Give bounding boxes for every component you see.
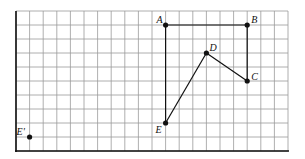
point-a-label: A [156, 14, 164, 25]
labeled-points: ABCDEE' [16, 14, 259, 140]
point-c-label: C [251, 71, 258, 82]
point-e-label: E [155, 124, 162, 135]
point-d-label: D [208, 42, 217, 53]
point-d-dot [204, 50, 209, 55]
point-b-label: B [251, 14, 257, 25]
point-e_prime-dot [27, 134, 32, 139]
point-e_prime-label: E' [16, 126, 26, 137]
grid-diagram: ABCDEE' [0, 0, 305, 159]
point-a-dot [163, 22, 168, 27]
segment-D-E [166, 53, 207, 123]
point-b-dot [245, 22, 250, 27]
point-e-dot [163, 120, 168, 125]
point-c-dot [245, 78, 250, 83]
